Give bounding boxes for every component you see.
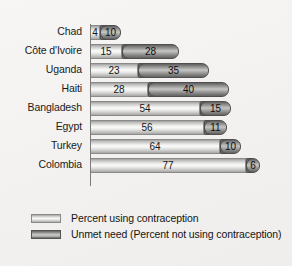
category-label-bangladesh: Bangladesh [0, 100, 82, 114]
bar-value-unmet: 10 [223, 142, 238, 152]
bar-value-using: 4 [90, 28, 100, 38]
bar-segment-unmet: 10 [100, 25, 121, 40]
bar-segment-using: 54 [91, 101, 200, 116]
category-label-uganda: Uganda [0, 62, 82, 76]
bar-group-egypt: 56 11 [91, 120, 227, 135]
table-row: Chad 4 10 [0, 24, 292, 43]
table-row: Colombia 77 6 [0, 157, 292, 176]
table-row: Uganda 23 35 [0, 62, 292, 81]
bar-value-using: 54 [137, 104, 152, 114]
bar-value-using: 23 [106, 66, 121, 76]
bar-group-uganda: 23 35 [91, 63, 209, 78]
bar-group-chad: 4 10 [91, 25, 121, 40]
table-row: Turkey 64 10 [0, 138, 292, 157]
bar-segment-using: 64 [91, 139, 220, 154]
bar-group-turkey: 64 10 [91, 139, 241, 154]
bar-group-bangladesh: 54 15 [91, 101, 231, 116]
legend-swatch-icon-using [31, 214, 61, 223]
legend-item-using: Percent using contraception [31, 210, 281, 226]
legend-label-using: Percent using contraception [71, 212, 198, 224]
bar-segment-unmet: 6 [246, 158, 260, 173]
bar-value-using: 15 [98, 47, 113, 57]
bar-value-unmet: 35 [166, 66, 181, 76]
bar-segment-unmet: 28 [122, 44, 179, 59]
bar-segment-unmet: 11 [204, 120, 227, 135]
bar-group-colombia: 77 6 [91, 158, 260, 173]
table-row: Bangladesh 54 15 [0, 100, 292, 119]
plot-area: Chad 4 10 Côte d'Ivoire 15 28 [0, 24, 292, 176]
bar-segment-unmet: 10 [220, 139, 241, 154]
category-label-turkey: Turkey [0, 138, 82, 152]
bar-value-using: 77 [160, 161, 175, 171]
category-label-colombia: Colombia [0, 157, 82, 171]
legend-item-unmet: Unmet need (Percent not using contracept… [31, 226, 281, 242]
legend: Percent using contraception Unmet need (… [31, 210, 281, 242]
bar-segment-using: 15 [91, 44, 122, 59]
bar-value-using: 28 [111, 85, 126, 95]
bar-segment-unmet: 35 [138, 63, 209, 78]
bar-value-using: 64 [147, 142, 162, 152]
bar-segment-unmet: 40 [148, 82, 229, 97]
category-label-cote-divoire: Côte d'Ivoire [0, 43, 82, 57]
category-label-haiti: Haiti [0, 81, 82, 95]
bar-segment-using: 77 [91, 158, 246, 173]
bar-group-haiti: 28 40 [91, 82, 229, 97]
category-label-egypt: Egypt [0, 119, 82, 133]
bar-segment-using: 23 [91, 63, 138, 78]
bar-value-using: 56 [139, 123, 154, 133]
contraception-bar-chart: Chad 4 10 Côte d'Ivoire 15 28 [0, 0, 292, 266]
bar-value-unmet: 10 [103, 28, 118, 38]
category-label-chad: Chad [0, 24, 82, 38]
bar-group-cote-divoire: 15 28 [91, 44, 179, 59]
legend-swatch-icon-unmet [31, 230, 61, 239]
bar-value-unmet: 28 [143, 47, 158, 57]
table-row: Egypt 56 11 [0, 119, 292, 138]
bar-value-unmet: 15 [208, 104, 223, 114]
legend-label-unmet: Unmet need (Percent not using contracept… [71, 228, 281, 240]
table-row: Côte d'Ivoire 15 28 [0, 43, 292, 62]
bar-value-unmet: 11 [208, 123, 222, 133]
bar-segment-using: 56 [91, 120, 204, 135]
bar-segment-unmet: 15 [200, 101, 231, 116]
table-row: Haiti 28 40 [0, 81, 292, 100]
bar-value-unmet: 6 [248, 161, 258, 171]
bar-value-unmet: 40 [181, 85, 196, 95]
bar-segment-using: 28 [91, 82, 148, 97]
bar-segment-using: 4 [91, 25, 100, 40]
